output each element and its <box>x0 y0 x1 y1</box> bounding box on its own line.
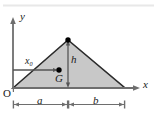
x-zero-subscript: 0 <box>29 60 32 67</box>
y-axis-arrow-icon <box>10 17 16 24</box>
height-label: h <box>71 54 77 65</box>
x-axis-label: x <box>143 79 148 90</box>
dim-a-label: a <box>37 95 43 106</box>
triangle-centroid-figure: y x O x0 h G a b <box>0 0 157 118</box>
y-axis-label: y <box>20 11 25 22</box>
centroid-label: G <box>55 73 63 84</box>
dim-a-arrow-right-icon <box>62 103 67 107</box>
dim-b-label: b <box>93 95 99 106</box>
dim-b-arrow-right-icon <box>119 103 124 107</box>
origin-label: O <box>3 88 11 99</box>
dim-a-arrow-left-icon <box>14 103 19 107</box>
dim-b-arrow-left-icon <box>69 103 74 107</box>
x-zero-label: x0 <box>25 56 33 67</box>
apex-point-marker <box>65 37 70 42</box>
x-axis-arrow-icon <box>133 85 140 91</box>
